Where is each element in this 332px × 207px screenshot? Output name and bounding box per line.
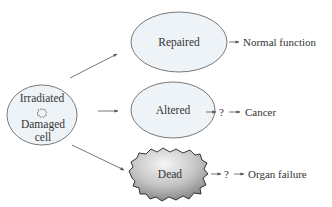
dead-label: Dead xyxy=(158,168,183,180)
source-label-line3: cell xyxy=(35,131,52,143)
source-label-line1: Irradiated xyxy=(20,92,65,104)
arrow-to-dead xyxy=(72,145,124,170)
arrow-to-repaired xyxy=(70,54,117,78)
source-label-line2: Damaged xyxy=(21,118,65,131)
dead-question-mark: ? xyxy=(224,168,229,180)
outcome-node-altered: Altered xyxy=(131,82,215,138)
outcome-node-dead: Dead xyxy=(129,148,208,201)
repaired-label: Repaired xyxy=(158,36,200,49)
altered-question-mark: ? xyxy=(219,106,224,118)
source-node-irradiated-cell: Irradiated Damaged cell xyxy=(7,85,77,145)
result-organ-failure: Organ failure xyxy=(248,168,307,180)
result-normal-function: Normal function xyxy=(243,36,317,48)
result-cancer: Cancer xyxy=(245,106,276,118)
cell-fate-diagram: Irradiated Damaged cell Repaired Normal … xyxy=(0,0,332,207)
outcome-node-repaired: Repaired xyxy=(131,12,227,72)
altered-label: Altered xyxy=(156,104,191,116)
